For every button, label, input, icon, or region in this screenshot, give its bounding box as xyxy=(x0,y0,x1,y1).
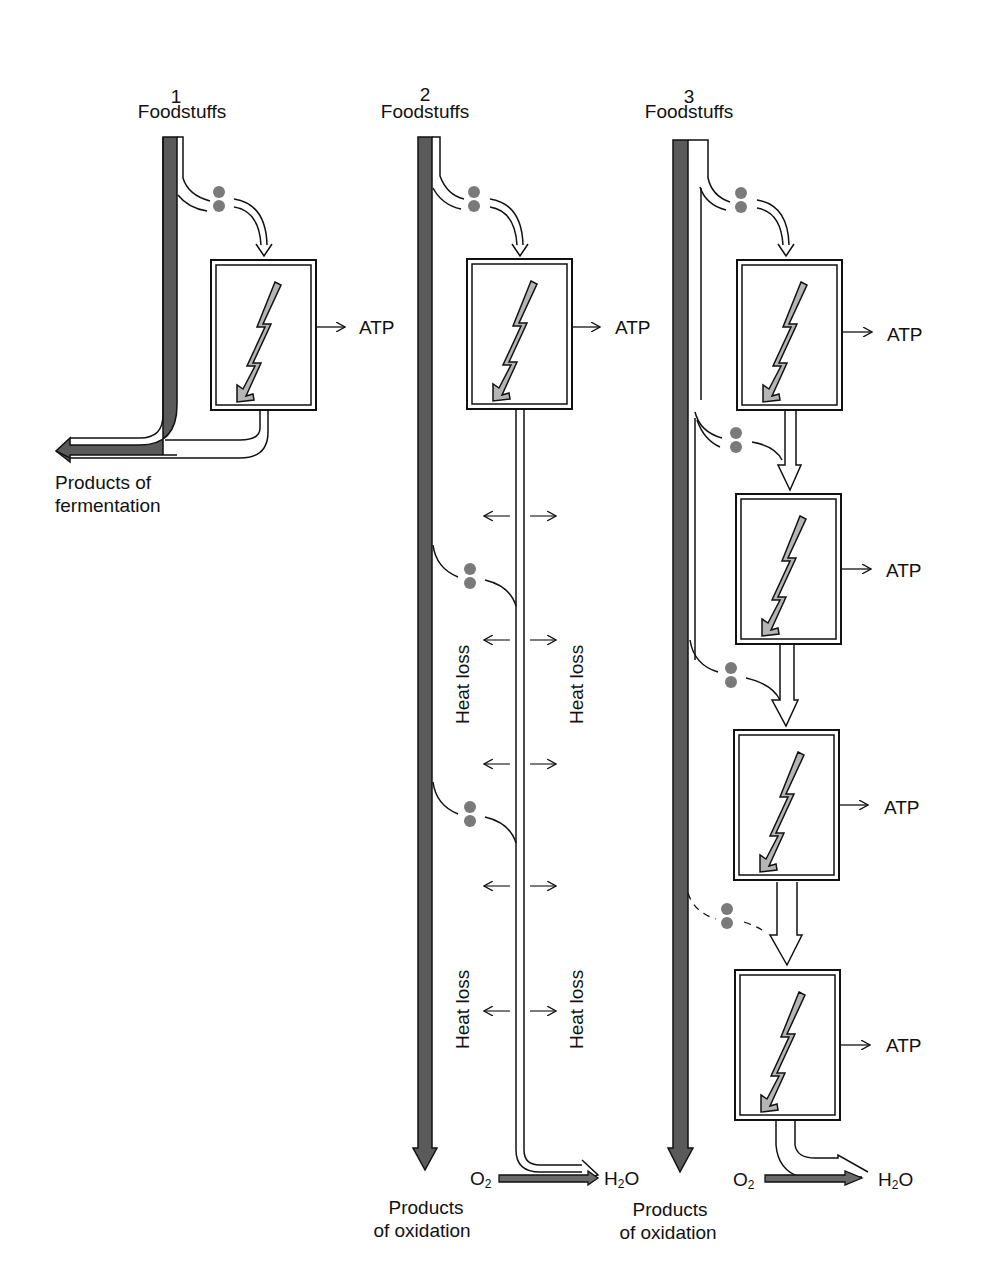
panel-2-output-label-line1: Products xyxy=(389,1197,464,1218)
white-tube-1 xyxy=(177,137,210,201)
atp-synthesis-box xyxy=(737,260,842,410)
heat-loss-label: Heat loss xyxy=(452,970,474,1049)
atp-synthesis-box xyxy=(735,970,840,1120)
metabolism-diagram xyxy=(0,0,982,1284)
panel-2-h2o-label: H2O xyxy=(604,1168,639,1195)
panel-3-atp-label-3: ATP xyxy=(884,797,920,818)
dark-tube-fermentation xyxy=(56,137,177,462)
atp-synthesis-box xyxy=(736,494,841,644)
heat-arrows xyxy=(484,516,556,1011)
panel-3-atp-label-2: ATP xyxy=(886,560,922,581)
heat-loss-label: Heat loss xyxy=(452,645,474,724)
electron-pair-icon xyxy=(464,563,476,589)
electron-pair-icon xyxy=(725,662,737,688)
panel-3-output-label-line2: of oxidation xyxy=(619,1222,716,1243)
panel-3-atp-label-1: ATP xyxy=(887,324,923,345)
panel-3-atp-label-4: ATP xyxy=(886,1035,922,1056)
electron-pair-icon xyxy=(735,187,747,213)
electron-pair-icon xyxy=(464,801,476,827)
panel-3-o2-label: O2 xyxy=(733,1169,754,1196)
panel-2-output-label-line2: of oxidation xyxy=(373,1220,470,1241)
panel-3-output-label-line1: Products xyxy=(633,1199,708,1220)
panel-1 xyxy=(56,137,345,462)
panel-1-output-label-line1: Products of xyxy=(55,472,151,493)
electron-pair-icon xyxy=(468,186,480,212)
electron-pair-icon xyxy=(730,427,742,453)
panel-2-o2-label: O2 xyxy=(470,1168,491,1195)
electron-pair-icon xyxy=(721,903,733,929)
dark-tube-oxidation-3 xyxy=(668,140,693,1172)
panel-1-input-label: Foodstuffs xyxy=(138,101,226,122)
heat-loss-label: Heat loss xyxy=(566,645,588,724)
dark-tube-oxidation-2 xyxy=(413,137,437,1170)
panel-3 xyxy=(668,140,872,1185)
panel-1-atp-label: ATP xyxy=(359,317,395,338)
atp-synthesis-box xyxy=(211,260,316,410)
panel-3-h2o-label: H2O xyxy=(878,1169,913,1196)
atp-synthesis-box xyxy=(734,730,839,880)
panel-3-input-label: Foodstuffs xyxy=(645,101,733,122)
panel-2-atp-label: ATP xyxy=(615,317,651,338)
electron-pair-icon xyxy=(213,186,225,212)
panel-2-input-label: Foodstuffs xyxy=(381,101,469,122)
heat-loss-label: Heat loss xyxy=(566,970,588,1049)
atp-synthesis-box xyxy=(467,259,572,409)
panel-1-output-label-line2: fermentation xyxy=(55,495,161,516)
